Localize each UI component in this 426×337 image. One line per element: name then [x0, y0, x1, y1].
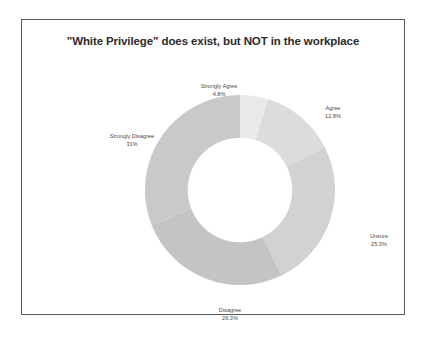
slice-label-strongly-disagree-pct: 31%: [87, 140, 177, 148]
slice-label-strongly-agree-pct: 4.8%: [174, 90, 264, 98]
slice-label-disagree: Disagree 26.3%: [195, 306, 265, 322]
donut-slice-disagree: [152, 209, 282, 285]
slice-label-disagree-name: Disagree: [219, 307, 241, 313]
slice-label-strongly-disagree-name: Strongly Disagree: [110, 133, 154, 139]
donut-slice-unsure: [263, 147, 335, 275]
donut-svg: [145, 95, 335, 285]
slice-label-unsure: Unsure 25.3%: [349, 232, 409, 248]
slice-label-agree-name: Agree: [326, 105, 341, 111]
slice-label-unsure-pct: 25.3%: [349, 240, 409, 248]
chart-title: "White Privilege" does exist, but NOT in…: [22, 35, 404, 47]
slice-label-strongly-agree: Strongly Agree 4.8%: [174, 82, 264, 98]
slice-label-agree-pct: 12.8%: [303, 112, 363, 120]
donut-slice-strongly-disagree: [145, 95, 240, 225]
slice-label-unsure-name: Unsure: [370, 233, 388, 239]
donut-chart: [145, 95, 335, 285]
slice-label-strongly-agree-name: Strongly Agree: [201, 83, 238, 89]
slice-label-strongly-disagree: Strongly Disagree 31%: [87, 132, 177, 148]
slice-label-agree: Agree 12.8%: [303, 104, 363, 120]
chart-figure-frame: "White Privilege" does exist, but NOT in…: [21, 19, 405, 315]
donut-slice-group: [145, 95, 335, 285]
slice-label-disagree-pct: 26.3%: [195, 314, 265, 322]
